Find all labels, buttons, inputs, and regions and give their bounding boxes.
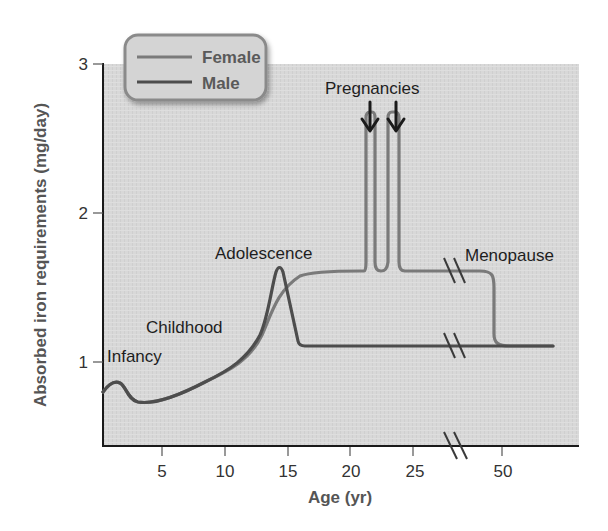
x-tick-5: 5: [157, 462, 166, 481]
annotation-pregnancies: Pregnancies: [325, 79, 420, 98]
iron-requirements-chart: 3 2 1 5 10 15 20 25 50 Age (yr) Absorbed…: [0, 0, 608, 531]
x-tick-25: 25: [406, 462, 425, 481]
x-axis-title: Age (yr): [308, 488, 372, 507]
x-tick-10: 10: [216, 462, 235, 481]
y-tick-2: 2: [79, 204, 88, 223]
y-tick-1: 1: [79, 353, 88, 372]
legend: Female Male: [125, 35, 266, 100]
x-tick-20: 20: [342, 462, 361, 481]
annotation-childhood: Childhood: [146, 318, 223, 337]
legend-male-label: Male: [202, 74, 240, 93]
annotation-menopause: Menopause: [465, 246, 554, 265]
y-tick-3: 3: [79, 55, 88, 74]
annotation-adolescence: Adolescence: [215, 244, 312, 263]
annotation-infancy: Infancy: [107, 347, 162, 366]
y-axis-title: Absorbed iron requirements (mg/day): [31, 103, 50, 407]
legend-female-label: Female: [202, 48, 261, 67]
x-tick-15: 15: [279, 462, 298, 481]
x-tick-50: 50: [494, 462, 513, 481]
legend-box: [125, 35, 266, 100]
y-ticks: [93, 64, 103, 362]
